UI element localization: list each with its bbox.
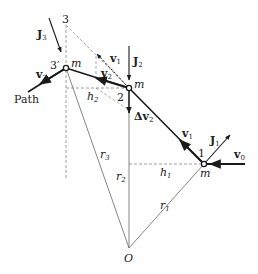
label-h1: h1 [160, 166, 172, 180]
J3-arrow [49, 18, 61, 52]
label-point-3: 3 [62, 13, 69, 26]
dashed-h2-diagonal [96, 88, 129, 110]
label-mass-2: m [134, 78, 144, 91]
label-r1: r1 [160, 199, 170, 213]
label-dv2: Δv2 [134, 110, 153, 124]
label-r3: r3 [100, 148, 110, 162]
label-h2: h2 [87, 90, 99, 104]
label-J2: J2 [132, 55, 143, 69]
label-v0: v0 [233, 148, 245, 162]
label-path: Path [14, 93, 39, 106]
angular-momentum-impulse-diagram: 1 2 3 3′ O m m m Path v0 v1 v1 v2 v3 Δv2… [0, 0, 258, 274]
mass-point-2 [126, 85, 131, 90]
label-J1: J1 [209, 134, 220, 148]
label-mass-3: m [71, 57, 81, 70]
mass-point-3-prime [63, 65, 68, 70]
label-v1: v1 [181, 127, 193, 141]
label-v3: v3 [35, 68, 47, 82]
label-r2: r2 [116, 170, 126, 184]
label-origin: O [124, 252, 133, 265]
label-mass-1: m [200, 167, 210, 180]
label-v1-ghost: v1 [109, 52, 121, 66]
label-J3: J3 [36, 28, 47, 42]
label-point-1: 1 [198, 147, 205, 160]
mass-point-1 [201, 161, 206, 166]
label-point-2: 2 [117, 91, 124, 104]
label-point-3-prime: 3′ [50, 59, 60, 72]
